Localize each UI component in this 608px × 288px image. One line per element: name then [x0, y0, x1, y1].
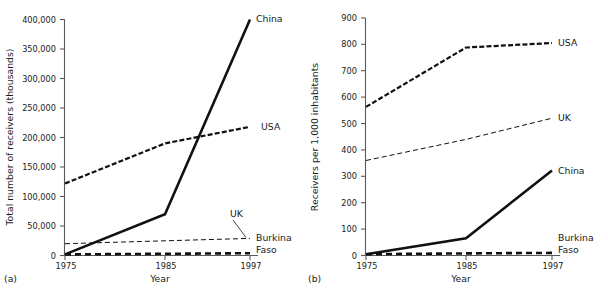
chart-b-y-axis-title: Receivers per 1,000 inhabitants — [309, 63, 320, 211]
chart-a-y-tick-label: 150,000 — [22, 162, 56, 172]
chart-b-series-uk — [366, 118, 552, 160]
chart-b-y-tick-label: 900 — [341, 13, 357, 23]
chart-b-label-usa: USA — [558, 37, 578, 48]
chart-a-label-usa: USA — [261, 121, 281, 132]
chart-a-label-faso: Faso — [256, 244, 277, 255]
chart-a-x-tick-label: 1985 — [156, 261, 177, 271]
chart-a-x-ticks — [65, 256, 250, 261]
chart-b-x-ticks — [366, 256, 552, 261]
chart-a-x-axis-title: Year — [149, 273, 170, 284]
chart-a-y-tick-label: 0 — [51, 251, 56, 261]
chart-a-panel-caption: (a) — [4, 273, 17, 284]
chart-a-y-tick-label: 50,000 — [27, 221, 56, 231]
chart-a-y-tick-label: 100,000 — [22, 192, 56, 202]
chart-panel-a: Total number of receivers (thousands) 0 … — [0, 0, 304, 288]
chart-panel-b: Receivers per 1,000 inhabitants 0 100 20… — [304, 0, 608, 288]
chart-a-y-tick-label: 350,000 — [22, 44, 56, 54]
chart-b-panel-caption: (b) — [308, 273, 321, 284]
chart-b-y-tick-label: 200 — [341, 198, 357, 208]
chart-b-y-tick-label: 600 — [341, 92, 357, 102]
chart-b-x-tick-label: 1985 — [457, 261, 478, 271]
chart-b-x-axis-title: Year — [450, 273, 471, 284]
chart-a-svg: Total number of receivers (thousands) 0 … — [0, 0, 304, 288]
chart-b-y-tick-label: 800 — [341, 39, 357, 49]
chart-a-series-usa — [65, 127, 250, 184]
chart-a-label-china: China — [256, 13, 283, 24]
chart-a-y-tick-label: 200,000 — [22, 133, 56, 143]
chart-a-label-uk: UK — [230, 208, 244, 219]
chart-a-uk-leader-line — [233, 220, 246, 238]
chart-b-label-faso: Faso — [558, 244, 579, 255]
chart-b-svg: Receivers per 1,000 inhabitants 0 100 20… — [304, 0, 608, 288]
chart-b-series-usa — [366, 43, 552, 107]
chart-b-y-ticks — [361, 18, 366, 256]
chart-a-y-tick-label: 400,000 — [22, 15, 56, 25]
chart-b-x-tick-label: 1997 — [543, 261, 564, 271]
chart-b-label-uk: UK — [558, 112, 572, 123]
chart-b-y-tick-label: 300 — [341, 171, 357, 181]
chart-b-y-tick-label: 500 — [341, 119, 357, 129]
chart-a-y-axis-title: Total number of receivers (thousands) — [4, 49, 15, 227]
chart-b-y-tick-label: 0 — [352, 251, 357, 261]
chart-b-label-china: China — [558, 165, 585, 176]
chart-b-y-tick-label: 400 — [341, 145, 357, 155]
chart-a-x-tick-label: 1975 — [56, 261, 77, 271]
chart-a-y-ticks — [60, 20, 65, 256]
chart-b-label-burkina: Burkina — [558, 232, 594, 243]
chart-b-series-burkina-faso — [366, 253, 552, 254]
chart-a-series-burkina-faso — [65, 253, 250, 254]
chart-b-y-tick-label: 100 — [341, 224, 357, 234]
chart-a-y-tick-label: 300,000 — [22, 74, 56, 84]
chart-b-x-tick-label: 1975 — [357, 261, 378, 271]
chart-b-y-tick-label: 700 — [341, 66, 357, 76]
chart-a-x-tick-label: 1997 — [241, 261, 262, 271]
chart-a-series-china — [65, 20, 250, 255]
chart-a-y-tick-label: 250,000 — [22, 103, 56, 113]
chart-b-series-china — [366, 171, 552, 255]
chart-a-label-burkina: Burkina — [256, 232, 292, 243]
